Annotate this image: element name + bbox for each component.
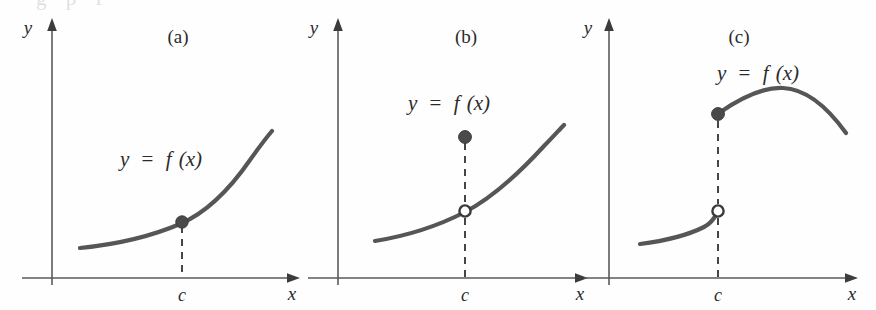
- y-axis-label-a: y: [22, 17, 33, 38]
- function-curve-c-right: [719, 88, 846, 133]
- x-axis-arrowhead-c: [845, 273, 858, 283]
- function-label-b-eq: =: [430, 91, 442, 115]
- filled-point-a: [176, 216, 188, 228]
- tick-label-c-a: c: [178, 285, 186, 305]
- panel-a: y x (a) c y = f (x): [0, 0, 300, 310]
- function-label-b-f: f: [454, 91, 463, 115]
- filled-point-b: [459, 131, 472, 144]
- function-label-b-y: y: [406, 91, 418, 115]
- y-axis-arrowhead-b: [333, 18, 343, 31]
- y-axis-arrowhead-c: [604, 18, 614, 31]
- y-axis-label-b: y: [308, 17, 319, 38]
- y-axis-label-c: y: [582, 17, 593, 38]
- function-label-b-arg: (x): [467, 91, 490, 115]
- x-axis-label-c: x: [847, 283, 857, 304]
- panel-c: y x (c) c y = f (x): [584, 0, 876, 310]
- function-label-c-f: f: [763, 61, 772, 85]
- function-label-c-y: y: [715, 61, 727, 85]
- function-label-a-arg: (x): [179, 147, 202, 171]
- open-point-b: [459, 205, 470, 216]
- function-label-a-y: y: [118, 147, 130, 171]
- function-label-b: y = f (x): [406, 91, 490, 115]
- panel-b: y x (b) c y = f (x): [296, 0, 588, 310]
- panel-label-b: (b): [455, 26, 477, 48]
- figure-root: g p f y x (a) c y = f: [0, 0, 876, 310]
- function-label-a-eq: =: [142, 147, 154, 171]
- function-label-c-eq: =: [739, 61, 751, 85]
- function-label-c-arg: (x): [776, 61, 799, 85]
- tick-label-c-b: c: [461, 285, 469, 305]
- y-axis-arrowhead-a: [47, 18, 57, 31]
- panel-label-a: (a): [167, 26, 188, 48]
- filled-point-c: [712, 108, 725, 121]
- tick-label-c-c: c: [714, 285, 722, 305]
- open-point-c: [712, 205, 723, 216]
- function-label-a-f: f: [166, 147, 175, 171]
- function-label-c: y = f (x): [715, 61, 799, 85]
- function-label-a: y = f (x): [118, 147, 202, 171]
- panel-label-c: (c): [728, 26, 749, 48]
- function-curve-c-left: [640, 213, 717, 244]
- function-curve-b: [375, 125, 564, 241]
